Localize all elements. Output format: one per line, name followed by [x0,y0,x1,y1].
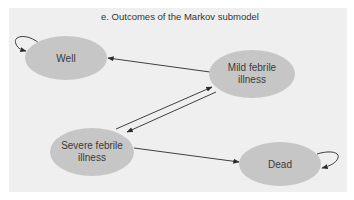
node-dead-label: Dead [268,159,292,170]
markov-diagram: e. Outcomes of the Markov submodel Well … [0,0,354,200]
node-well: Well [25,36,107,80]
node-severe-label-line2: illness [78,152,106,163]
node-mild-label-line1: Mild febrile [228,62,277,73]
node-severe-label-line1: Severe febrile [61,140,123,151]
node-well-label: Well [56,53,75,64]
node-dead: Dead [239,142,321,186]
node-mild-label-line2: illness [238,74,266,85]
node-mild-febrile-illness: Mild febrile illness [209,50,295,98]
node-severe-febrile-illness: Severe febrile illness [50,128,134,176]
diagram-title: e. Outcomes of the Markov submodel [101,11,259,22]
